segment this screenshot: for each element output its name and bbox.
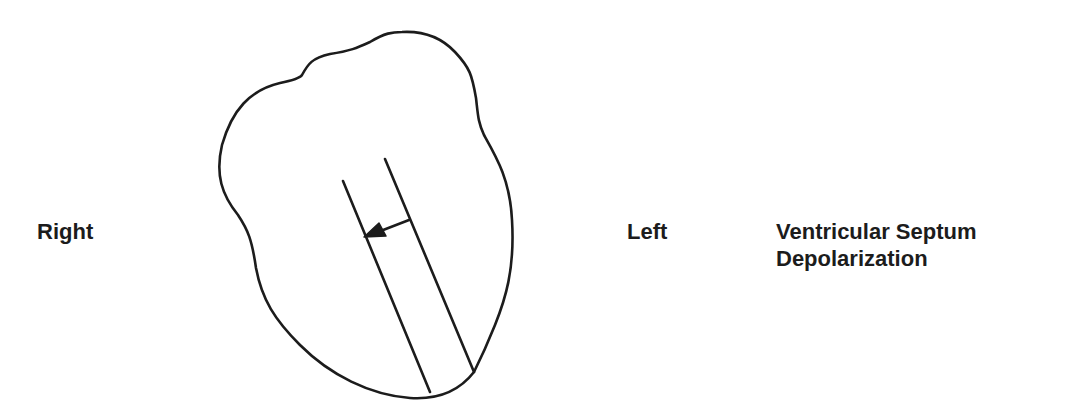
heart-outline — [219, 32, 512, 398]
diagram-title-line-1: Ventricular Septum — [776, 218, 977, 245]
depolarization-arrowhead-icon — [364, 223, 386, 237]
diagram-title-line-2: Depolarization — [776, 245, 977, 272]
orientation-label-right: Right — [37, 218, 93, 245]
heart-diagram — [0, 0, 1071, 409]
septum-left-wall — [343, 181, 430, 392]
orientation-label-left: Left — [627, 218, 667, 245]
septum-right-wall — [385, 159, 474, 372]
diagram-title: Ventricular Septum Depolarization — [776, 218, 977, 272]
